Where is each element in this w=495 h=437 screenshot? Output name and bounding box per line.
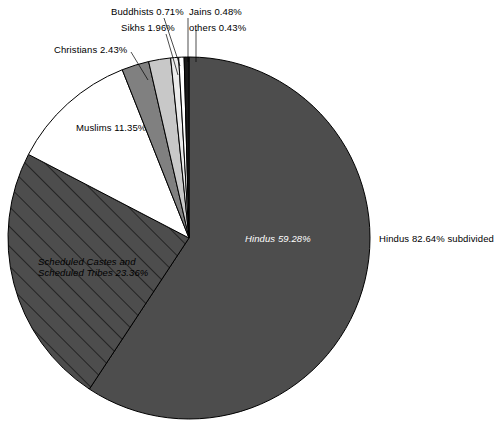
label-christians: Christians 2.43%	[54, 44, 127, 56]
label-scheduled-castes-line1: Scheduled Castes and	[38, 256, 136, 268]
label-others: others 0.43%	[189, 22, 246, 34]
pie-slices	[8, 57, 370, 419]
label-muslims: Muslims 11.35%	[76, 122, 146, 134]
label-buddhists: Buddhists 0.71%	[111, 6, 184, 18]
label-scheduled-castes-line2: Scheduled Tribes 23.36%	[38, 267, 148, 279]
label-hindus-inner: Hindus 59.28%	[245, 233, 311, 245]
label-hindus-subdivided: Hindus 82.64% subdivided	[379, 233, 494, 245]
label-sikhs: Sikhs 1.96%	[121, 22, 175, 34]
label-jains: Jains 0.48%	[189, 6, 242, 18]
pie-chart-figure: Buddhists 0.71% Jains 0.48% Sikhs 1.96% …	[0, 0, 495, 437]
pie-chart-svg	[0, 0, 495, 437]
